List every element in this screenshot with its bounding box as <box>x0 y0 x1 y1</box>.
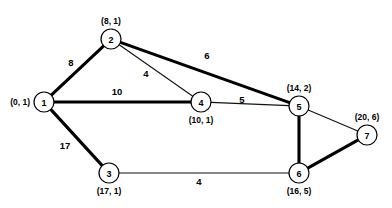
graph-edge-6-7 <box>308 140 359 168</box>
graph-node-6: 6 <box>289 163 309 183</box>
edge-weight-label-2-5: 6 <box>204 50 209 61</box>
edge-weight-label-4-5: 5 <box>239 94 245 105</box>
edge-weight-label-1-4: 10 <box>112 86 123 97</box>
graph-node-label-1: 1 <box>41 98 46 108</box>
graph-node-2: 2 <box>101 29 121 49</box>
graph-node-annotation-5: (14, 2) <box>287 83 312 93</box>
graph-edge-4-5 <box>211 102 289 105</box>
graph-node-annotation-7: (20, 6) <box>355 112 380 122</box>
graph-edge-5-7 <box>308 110 358 131</box>
graph-node-label-4: 4 <box>198 98 203 108</box>
edge-weight-label-3-6: 4 <box>196 176 202 187</box>
graph-node-label-5: 5 <box>296 102 301 112</box>
graph-canvas: 846105174 1234567 (0, 1)(8, 1)(17, 1)(10… <box>0 0 392 208</box>
graph-node-annotation-2: (8, 1) <box>101 16 121 26</box>
edge-weight-label-1-3: 17 <box>60 140 71 151</box>
graph-node-7: 7 <box>357 125 377 145</box>
graph-node-label-7: 7 <box>364 131 369 141</box>
graph-node-label-2: 2 <box>108 35 113 45</box>
edge-weight-label-1-2: 8 <box>68 57 73 68</box>
graph-edge-2-4 <box>119 45 193 97</box>
edge-weight-labels-layer: 846105174 <box>60 50 246 187</box>
edge-weight-label-2-4: 4 <box>143 68 149 79</box>
graph-diagram: 846105174 1234567 (0, 1)(8, 1)(17, 1)(10… <box>0 0 392 208</box>
graph-node-label-3: 3 <box>106 169 111 179</box>
graph-node-3: 3 <box>99 163 119 183</box>
graph-node-annotation-4: (10, 1) <box>189 115 214 125</box>
graph-node-1: 1 <box>34 92 54 112</box>
graph-node-5: 5 <box>289 96 309 116</box>
graph-node-label-6: 6 <box>296 169 301 179</box>
graph-node-annotation-3: (17, 1) <box>97 186 122 196</box>
graph-edge-1-2 <box>51 46 103 95</box>
graph-node-annotation-6: (16, 5) <box>287 186 312 196</box>
graph-node-4: 4 <box>191 92 211 112</box>
graph-edge-1-3 <box>51 109 102 165</box>
graph-node-annotation-1: (0, 1) <box>10 97 30 107</box>
